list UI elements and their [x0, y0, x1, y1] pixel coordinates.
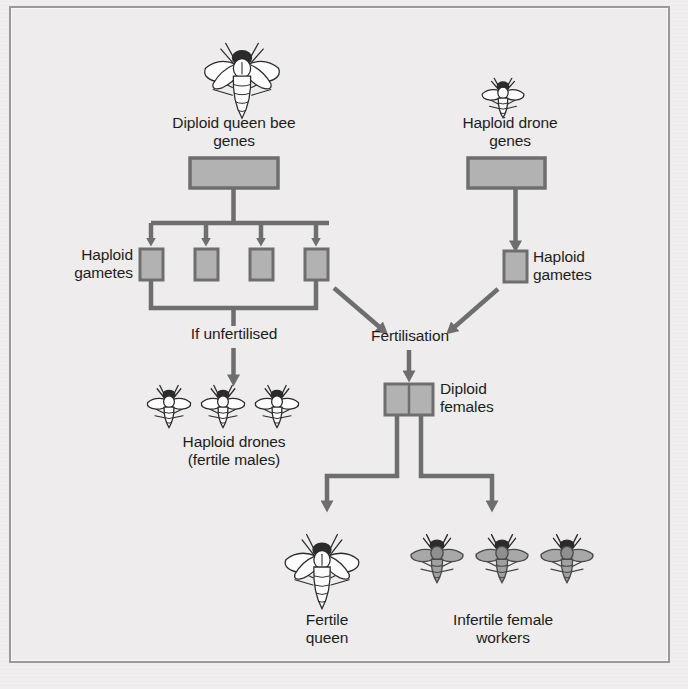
- label-fertilisation: Fertilisation: [352, 327, 468, 345]
- infertile-worker-bee-icon-2: [471, 526, 533, 590]
- haploid-drone-bee-icon-2: [196, 378, 250, 434]
- queen-gamete-box-1: [140, 249, 163, 280]
- gamete-collection-bar: [151, 280, 316, 308]
- branch-to-queen: [327, 414, 397, 506]
- drone-gamete-to-fertilisation: [451, 289, 498, 330]
- haploid-drone-bee-icon-3: [250, 378, 304, 434]
- label-fertile-queen: Fertile queen: [277, 611, 377, 647]
- label-if-unfertilised: If unfertilised: [161, 325, 307, 343]
- diagram-canvas: Diploid queen bee genes Haploid drone ge…: [11, 8, 668, 661]
- queen-gamete-to-fertilisation: [334, 288, 383, 330]
- queen-gene-box: [190, 158, 278, 188]
- queen-bee-icon: [193, 26, 291, 126]
- drone-gamete-box: [504, 251, 527, 282]
- label-haploid-drones: Haploid drones (fertile males): [144, 433, 324, 469]
- queen-gamete-box-3: [250, 249, 273, 280]
- diagram-frame: Diploid queen bee genes Haploid drone ge…: [9, 6, 670, 663]
- fertile-queen-bee-icon: [276, 520, 368, 614]
- label-drone-genes: Haploid drone genes: [445, 114, 575, 150]
- label-haploid-gametes-drone: Haploid gametes: [533, 248, 643, 284]
- figure-stage: mi thx mt ht u qucm bcc nd thc muicthwi …: [0, 0, 688, 689]
- haploid-drone-bee-icon-1: [142, 378, 196, 434]
- drone-gene-box: [468, 158, 545, 188]
- label-infertile-workers: Infertile female workers: [415, 611, 591, 647]
- branch-to-workers: [421, 414, 492, 506]
- infertile-worker-bee-icon-3: [536, 526, 598, 590]
- queen-gamete-box-4: [305, 249, 328, 280]
- infertile-worker-bee-icon-1: [406, 526, 468, 590]
- queen-gamete-box-2: [195, 249, 218, 280]
- label-queen-genes: Diploid queen bee genes: [139, 114, 329, 150]
- label-diploid-females: Diploid females: [440, 380, 536, 416]
- label-haploid-gametes-queen: Haploid gametes: [29, 246, 133, 282]
- diploid-female-box: [385, 384, 433, 415]
- gene-boxes: [140, 158, 545, 415]
